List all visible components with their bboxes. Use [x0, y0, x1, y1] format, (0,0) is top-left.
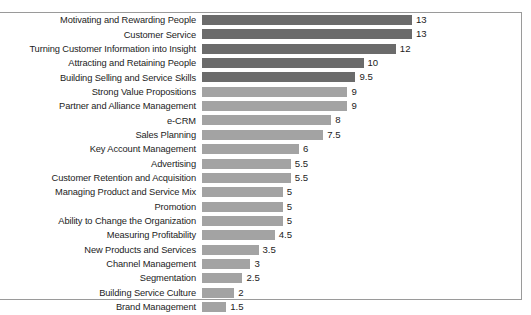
bar-with-value: 2.5: [202, 273, 260, 283]
bar: [202, 245, 259, 255]
bar-value-label: 3.5: [263, 245, 276, 255]
category-label: Building Selling and Service Skills: [0, 73, 196, 83]
bar-row: Measuring Profitability4.5: [0, 228, 531, 242]
category-label: Sales Planning: [0, 130, 196, 140]
bar: [202, 130, 323, 140]
bar: [202, 101, 347, 111]
category-label: e-CRM: [0, 116, 196, 126]
category-label: New Products and Services: [0, 245, 196, 255]
bar-row: e-CRM8: [0, 113, 531, 127]
bar-row: Building Service Culture2: [0, 286, 531, 300]
bar-with-value: 13: [202, 29, 427, 39]
bar-row: Building Selling and Service Skills9.5: [0, 70, 531, 84]
bar-row: Ability to Change the Organization5: [0, 214, 531, 228]
bar: [202, 273, 242, 283]
bar-row: Segmentation2.5: [0, 271, 531, 285]
bar-value-label: 6: [303, 144, 308, 154]
bar-row: Partner and Alliance Management9: [0, 99, 531, 113]
category-label: Attracting and Retaining People: [0, 58, 196, 68]
bar-row: Advertising5.5: [0, 157, 531, 171]
bar-row: Customer Retention and Acquisition5.5: [0, 171, 531, 185]
bar-with-value: 5: [202, 202, 292, 212]
bar-with-value: 8: [202, 115, 341, 125]
bar-with-value: 2: [202, 288, 244, 298]
category-label: Motivating and Rewarding People: [0, 15, 196, 25]
bar-with-value: 5.5: [202, 159, 308, 169]
bar-chart: Motivating and Rewarding People13Custome…: [0, 0, 531, 315]
category-label: Customer Retention and Acquisition: [0, 173, 196, 183]
bar-row: Promotion5: [0, 200, 531, 214]
bar-value-label: 3: [254, 259, 259, 269]
bar: [202, 29, 412, 39]
bar-row: Turning Customer Information into Insigh…: [0, 42, 531, 56]
category-label: Advertising: [0, 159, 196, 169]
bar-with-value: 9: [202, 101, 357, 111]
bar-with-value: 9.5: [202, 72, 373, 82]
bar-value-label: 4.5: [279, 230, 292, 240]
bar-value-label: 12: [400, 44, 411, 54]
bar-value-label: 5: [287, 216, 292, 226]
category-label: Measuring Profitability: [0, 230, 196, 240]
category-label: Channel Management: [0, 259, 196, 269]
bar-with-value: 10: [202, 58, 378, 68]
bar: [202, 72, 355, 82]
bar-with-value: 4.5: [202, 230, 292, 240]
category-label: Turning Customer Information into Insigh…: [0, 44, 196, 54]
bar-value-label: 10: [368, 58, 379, 68]
bar: [202, 302, 226, 312]
bar-value-label: 1.5: [230, 302, 243, 312]
bar-with-value: 6: [202, 144, 308, 154]
category-label: Managing Product and Service Mix: [0, 187, 196, 197]
bar-rows-container: Motivating and Rewarding People13Custome…: [0, 13, 531, 300]
category-label: Segmentation: [0, 273, 196, 283]
bar-row: Key Account Management6: [0, 142, 531, 156]
bar-value-label: 5: [287, 202, 292, 212]
category-label: Promotion: [0, 202, 196, 212]
bar: [202, 58, 364, 68]
category-label: Key Account Management: [0, 144, 196, 154]
bar-row: Attracting and Retaining People10: [0, 56, 531, 70]
bar-value-label: 8: [335, 115, 340, 125]
bar-row: Customer Service13: [0, 27, 531, 41]
bar: [202, 216, 283, 226]
bar-with-value: 3: [202, 259, 260, 269]
bar-with-value: 1.5: [202, 302, 244, 312]
bar: [202, 173, 291, 183]
bar-value-label: 9: [351, 87, 356, 97]
bar: [202, 230, 275, 240]
bar-with-value: 5.5: [202, 173, 308, 183]
bar-value-label: 5.5: [295, 159, 308, 169]
bar-row: Managing Product and Service Mix5: [0, 185, 531, 199]
bar-value-label: 13: [416, 29, 427, 39]
category-label: Strong Value Propositions: [0, 87, 196, 97]
category-label: Brand Management: [0, 302, 196, 312]
bar: [202, 115, 331, 125]
bar-value-label: 2.5: [246, 273, 259, 283]
bar: [202, 159, 291, 169]
bar: [202, 187, 283, 197]
bar-with-value: 5: [202, 187, 292, 197]
category-label: Customer Service: [0, 30, 196, 40]
bar-with-value: 3.5: [202, 245, 276, 255]
bar-row: Sales Planning7.5: [0, 128, 531, 142]
bar-row: New Products and Services3.5: [0, 243, 531, 257]
bar-value-label: 9: [351, 101, 356, 111]
bar-with-value: 13: [202, 15, 427, 25]
bar-value-label: 5: [287, 187, 292, 197]
category-label: Partner and Alliance Management: [0, 101, 196, 111]
bar: [202, 288, 234, 298]
bar: [202, 87, 347, 97]
bar-row: Channel Management3: [0, 257, 531, 271]
bar-value-label: 13: [416, 15, 427, 25]
bar-row: Brand Management1.5: [0, 300, 531, 314]
bar-value-label: 7.5: [327, 130, 340, 140]
bar: [202, 15, 412, 25]
bar-with-value: 5: [202, 216, 292, 226]
bar-value-label: 9.5: [359, 72, 372, 82]
bar-value-label: 5.5: [295, 173, 308, 183]
bar: [202, 144, 299, 154]
bar-row: Strong Value Propositions9: [0, 85, 531, 99]
category-label: Ability to Change the Organization: [0, 216, 196, 226]
bar: [202, 202, 283, 212]
bar-with-value: 12: [202, 44, 411, 54]
